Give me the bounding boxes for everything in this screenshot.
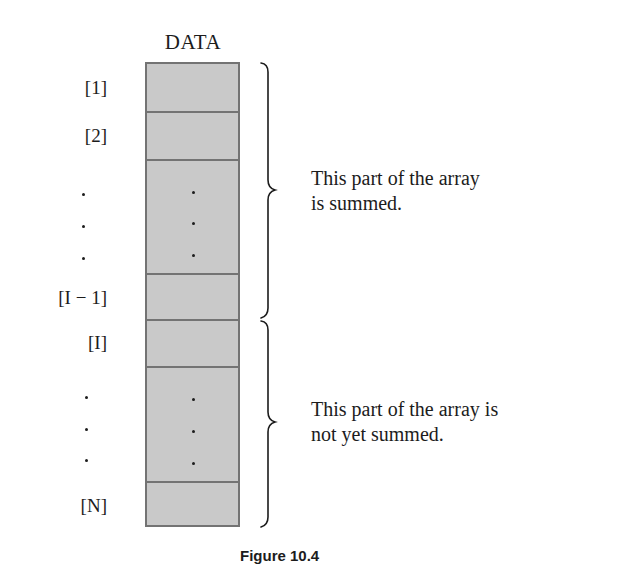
not-summed-annotation-line2: not yet summed. xyxy=(311,422,498,447)
not-summed-annotation: This part of the array is not yet summed… xyxy=(311,397,498,447)
summed-annotation: This part of the array is summed. xyxy=(311,166,480,216)
summed-annotation-line2: is summed. xyxy=(311,191,480,216)
summed-annotation-line1: This part of the array xyxy=(311,166,480,191)
figure-caption: Figure 10.4 xyxy=(240,547,319,564)
not-summed-annotation-line1: This part of the array is xyxy=(311,397,498,422)
